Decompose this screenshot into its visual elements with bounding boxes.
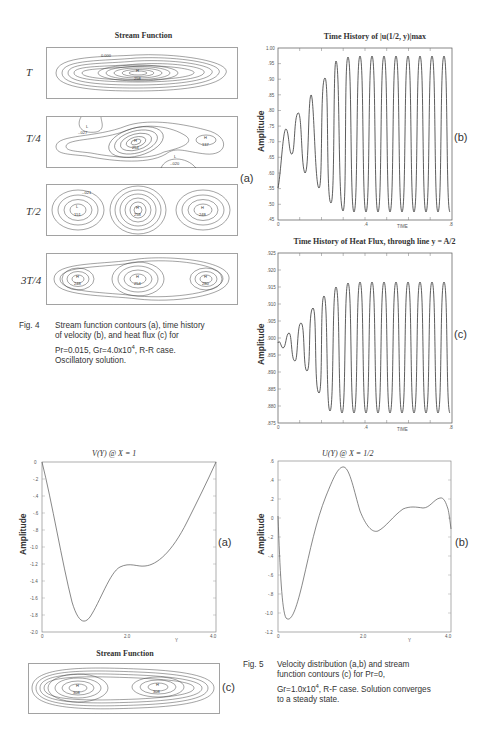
fig5-caption: Fig. 5 Velocity distribution (a,b) and s… [243,660,493,705]
chart-fig4c [278,253,452,423]
stream-contour-fig5c: H 308 H 308 [28,663,220,714]
svg-text:-.027: -.027 [78,130,88,135]
fig4-caption-line3: Pr=0.015, Gr=4.0x104, R-R case. [19,342,239,356]
svg-text:258: 258 [134,212,141,217]
fig4-caption-line4: Oscillatory solution. [19,356,239,366]
stream-contour-t4: L -.027 H 254 H 137 L -.020 [46,116,238,168]
fig5a-title: V(Y) @ X = 1 [92,449,136,458]
svg-text:254: 254 [132,145,139,150]
fig5-caption-prefix: Fig. 5 [243,660,277,670]
svg-text:258: 258 [134,76,141,81]
row-label-t4: T/4 [26,132,41,144]
svg-text:H: H [136,68,139,73]
svg-text:308: 308 [153,689,160,694]
label-0-000: 0.000 [101,53,112,58]
fig4c-ylabel: Amplitude [256,323,266,365]
fig4-caption-prefix: Fig. 4 [19,321,55,331]
fig5-caption-line4: to a steady state. [243,695,493,705]
fig4b-xlabel: TIME [397,224,408,229]
fig5-panel-b-tag: (b) [455,536,468,548]
svg-text:H: H [201,205,204,210]
fig4-caption-line2: of velocity (b), and heat flux (c) for [19,331,239,341]
svg-text:151: 151 [74,212,81,217]
stream-contour-t2: L 151 H 258 H 248 -.021 [46,184,238,236]
fig4c-xlabel: TIME [397,427,408,432]
stream-contour-3t4: H 248 H 254 H 280 [46,253,238,305]
fig5-panel-a-tag: (a) [218,536,231,548]
fig4-panel-c-tag: (c) [454,328,467,340]
fig5b-title: U(Y) @ X = 1/2 [322,449,373,458]
fig4-panel-b-tag: (b) [454,131,467,143]
fig4b-ylabel: Amplitude [256,110,266,152]
svg-text:280: 280 [202,281,209,286]
fig4-panel-a-tag: (a) [240,172,253,184]
svg-text:H: H [156,682,159,687]
svg-text:248: 248 [74,281,81,286]
fig5a-xlabel: Y [175,638,178,643]
fig4b-title: Time History of |u(1/2, y)|max [270,32,480,41]
svg-text:H: H [204,135,207,140]
fig4-caption: Fig. 4 Stream function contours (a), tim… [19,321,239,366]
fig4-caption-line1: Stream function contours (a), time histo… [55,321,205,331]
svg-text:H: H [136,274,139,279]
fig5-caption-line3: Gr=1.0x104, R-F case. Solution converges [243,681,493,695]
row-label-3t4: 3T/4 [21,274,41,286]
fig5-caption-line1: Velocity distribution (a,b) and stream [277,660,409,670]
fig5a-ylabel: Amplitude [18,513,28,555]
fig4c-title: Time History of Heat Flux, through line … [262,237,487,246]
row-label-t2: T/2 [26,205,41,217]
fig5-stream-title: Stream Function [30,649,220,658]
fig5-panel-c-tag: (c) [222,681,235,693]
svg-text:L: L [86,124,89,129]
svg-text:308: 308 [73,690,80,695]
chart-fig4b [278,48,452,220]
svg-text:-.020: -.020 [170,161,180,166]
svg-text:248: 248 [199,212,206,217]
svg-text:H: H [134,138,137,143]
chart-fig5b [278,461,451,632]
svg-text:H: H [204,274,207,279]
fig4-stream-title: Stream Function [46,31,241,40]
svg-text:H: H [76,274,79,279]
svg-text:137: 137 [202,142,209,147]
svg-text:L: L [76,204,79,209]
svg-text:-.021: -.021 [82,190,92,195]
svg-text:L: L [174,154,177,159]
chart-fig5a [42,462,216,632]
row-label-t: T [26,66,32,78]
svg-text:H: H [76,683,79,688]
svg-text:H: H [136,205,139,210]
fig5b-ylabel: Amplitude [256,513,266,555]
stream-contour-t: 0.000 H 258 [46,47,238,99]
fig5b-xlabel: Y [408,638,411,643]
fig5-caption-line2: function contours (c) for Pr=0, [243,670,493,680]
svg-text:254: 254 [134,281,141,286]
